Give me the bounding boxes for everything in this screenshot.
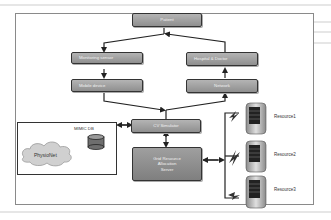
resource3-label: Resource3 xyxy=(274,187,296,192)
pda-device-icon xyxy=(246,176,266,208)
resource1-label: Resource1 xyxy=(274,114,296,119)
resource2-label: Resource2 xyxy=(274,152,296,157)
pda-device-icon xyxy=(246,141,266,172)
pda-device-icon xyxy=(246,103,266,134)
